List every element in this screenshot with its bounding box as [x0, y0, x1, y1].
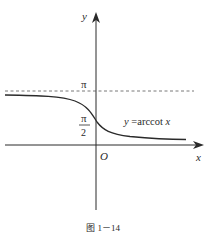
- y-axis-label: y: [81, 10, 87, 22]
- x-axis-label: x: [195, 151, 201, 163]
- half-pi-numerator: π: [81, 112, 87, 124]
- figure-caption: 图 1－14: [86, 223, 120, 233]
- arccot-figure: y x O π π 2 y =arccot x 图 1－14: [0, 0, 207, 235]
- origin-label: O: [100, 150, 108, 162]
- half-pi-denominator: 2: [81, 127, 86, 138]
- function-label: y =arccot x: [123, 116, 171, 127]
- pi-tick-label: π: [81, 78, 87, 90]
